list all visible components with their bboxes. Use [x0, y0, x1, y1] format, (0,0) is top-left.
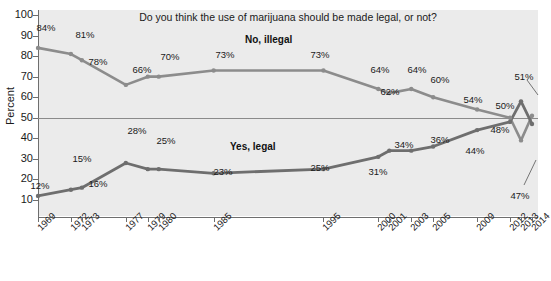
- data-point: [157, 74, 161, 78]
- data-label-yes-legal: 47%: [510, 190, 529, 201]
- data-label-yes-legal: 34%: [394, 139, 413, 150]
- data-label-yes-legal: 25%: [310, 162, 329, 173]
- data-point: [146, 167, 150, 171]
- series-label-no-illegal: No, illegal: [245, 34, 292, 45]
- data-label-no-illegal: 50%: [495, 100, 514, 111]
- leader-line: [527, 80, 538, 95]
- data-point: [69, 188, 73, 192]
- data-point: [321, 68, 325, 72]
- data-label-no-illegal: 78%: [88, 56, 107, 67]
- series-label-yes-legal: Yes, legal: [230, 141, 276, 152]
- data-label-yes-legal: 25%: [156, 135, 175, 146]
- label-leader-lines: [524, 80, 538, 185]
- data-label-yes-legal: 15%: [72, 153, 91, 164]
- data-label-yes-legal: 16%: [88, 178, 107, 189]
- data-point: [409, 87, 413, 91]
- data-point: [508, 116, 512, 120]
- data-point: [36, 46, 40, 50]
- data-label-no-illegal: 62%: [380, 86, 399, 97]
- data-label-yes-legal: 23%: [213, 166, 232, 177]
- data-label-no-illegal: 60%: [430, 74, 449, 85]
- data-label-no-illegal: 64%: [407, 64, 426, 75]
- data-label-yes-legal: 36%: [430, 134, 449, 145]
- data-label-no-illegal: 54%: [463, 94, 482, 105]
- data-label-no-illegal: 73%: [310, 49, 329, 60]
- data-point: [124, 83, 128, 87]
- data-point: [376, 155, 380, 159]
- data-point: [124, 161, 128, 165]
- data-point: [530, 114, 534, 118]
- series-points-no-illegal: [36, 46, 534, 143]
- data-point: [211, 68, 215, 72]
- data-label-no-illegal: 73%: [215, 49, 234, 60]
- data-point: [431, 95, 435, 99]
- data-point: [36, 194, 40, 198]
- data-point: [530, 122, 534, 126]
- series-line-no-illegal: [38, 48, 532, 141]
- data-label-no-illegal: 81%: [75, 29, 94, 40]
- data-point: [80, 58, 84, 62]
- data-point: [387, 148, 391, 152]
- chart-container: Do you think the use of marijuana should…: [0, 0, 551, 281]
- data-point: [519, 138, 523, 142]
- series-line-yes-legal: [38, 101, 532, 196]
- data-point: [475, 107, 479, 111]
- data-label-yes-legal: 28%: [127, 125, 146, 136]
- data-label-no-illegal: 64%: [370, 64, 389, 75]
- leader-line: [524, 160, 536, 185]
- data-point: [157, 167, 161, 171]
- data-label-yes-legal: 31%: [368, 166, 387, 177]
- data-point: [69, 52, 73, 56]
- data-point: [519, 99, 523, 103]
- data-label-yes-legal: 44%: [465, 145, 484, 156]
- data-point: [475, 128, 479, 132]
- data-point: [80, 185, 84, 189]
- data-label-no-illegal: 66%: [132, 64, 151, 75]
- data-label-no-illegal: 51%: [514, 71, 533, 82]
- data-label-yes-legal: 12%: [30, 180, 49, 191]
- data-point: [431, 144, 435, 148]
- series-points-yes-legal: [36, 99, 534, 198]
- data-label-yes-legal: 48%: [490, 124, 509, 135]
- data-label-no-illegal: 84%: [36, 22, 55, 33]
- data-label-no-illegal: 70%: [160, 51, 179, 62]
- data-point: [146, 74, 150, 78]
